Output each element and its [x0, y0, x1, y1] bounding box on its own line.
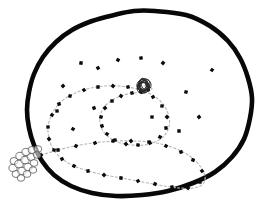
- diagram-canvas: [0, 0, 266, 214]
- bubble: [33, 152, 40, 159]
- waypoint-marker: [52, 148, 56, 152]
- waypoint-marker: [177, 129, 180, 132]
- bubble: [34, 146, 42, 153]
- waypoint-marker: [113, 138, 117, 142]
- waypoint-marker: [55, 109, 59, 113]
- waypoint-marker: [119, 176, 123, 180]
- bubble: [30, 160, 38, 167]
- waypoint-marker: [164, 126, 168, 130]
- bubble: [29, 167, 36, 174]
- waypoint-marker: [56, 148, 60, 152]
- waypoint-marker: [79, 61, 83, 65]
- waypoint-marker: [136, 143, 140, 147]
- waypoint-marker: [86, 169, 90, 173]
- waypoint-marker: [96, 85, 99, 88]
- waypoint-marker: [139, 56, 143, 60]
- waypoint-marker: [160, 104, 164, 108]
- waypoint-marker: [150, 115, 154, 119]
- waypoint-marker: [110, 99, 113, 102]
- bubble-cluster: [9, 146, 42, 182]
- waypoint-marker: [46, 125, 50, 129]
- spiral-route-map: [0, 0, 266, 214]
- waypoint-marker: [198, 180, 202, 184]
- outer-boundary-path: [27, 10, 252, 196]
